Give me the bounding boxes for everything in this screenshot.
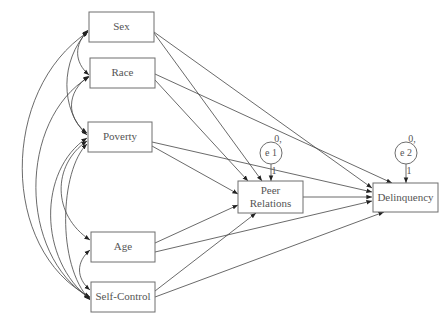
node-age-label: Age — [114, 240, 132, 252]
error-e1-loading: 1 — [272, 165, 277, 176]
node-delinquency: Delinquency — [373, 183, 438, 212]
error-e1-mean: 0, — [274, 133, 282, 144]
error-e2-label: e 2 — [400, 147, 412, 158]
node-poverty-label: Poverty — [103, 130, 138, 142]
error-e1: e 1 0, 1 — [260, 133, 282, 176]
error-e2-loading: 1 — [407, 165, 412, 176]
node-delinquency-label: Delinquency — [377, 191, 434, 203]
error-e2: e 2 0, 1 — [395, 133, 417, 176]
node-sex-label: Sex — [113, 20, 130, 32]
node-peer-relations-label-1: Peer — [261, 184, 281, 196]
regression-paths — [152, 32, 406, 297]
node-self-control: Self-Control — [91, 282, 155, 312]
node-poverty: Poverty — [88, 122, 152, 152]
path-diagram: Sex Race Poverty Age Self-Control Peer R… — [0, 0, 446, 324]
node-peer-relations-label-2: Relations — [250, 197, 292, 209]
error-e1-label: e 1 — [265, 147, 277, 158]
node-peer-relations: Peer Relations — [238, 181, 303, 213]
node-race-label: Race — [112, 66, 134, 78]
node-race: Race — [90, 58, 155, 88]
node-sex: Sex — [89, 12, 154, 42]
node-self-control-label: Self-Control — [96, 290, 151, 302]
error-e2-mean: 0, — [408, 133, 416, 144]
node-age: Age — [91, 232, 155, 262]
covariance-arrows — [22, 29, 90, 300]
